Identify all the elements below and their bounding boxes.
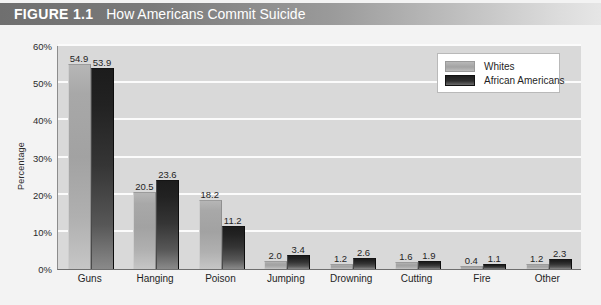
legend-label-african-americans: African Americans (484, 75, 565, 86)
bar-value-label: 11.2 (216, 215, 250, 226)
legend-item-whites: Whites (445, 59, 553, 73)
bar-other-african-americans (549, 259, 572, 269)
bar-guns-whites (68, 64, 91, 269)
bar-cutting-african-americans (418, 261, 441, 269)
bar-other-whites (526, 264, 549, 269)
bar-group: 2.03.4 (254, 46, 319, 269)
x-axis-label-other: Other (507, 273, 587, 284)
bar-guns-african-americans (91, 68, 114, 269)
chart-legend: Whites African Americans (437, 53, 560, 93)
y-axis-tick-labels: 0%10%20%30%40%50%60% (12, 25, 52, 305)
bar-value-label: 18.2 (193, 189, 227, 200)
bar-value-label: 3.4 (281, 244, 315, 255)
y-axis-tick-label: 20% (18, 189, 52, 200)
bar-jumping-whites (264, 261, 287, 269)
bar-fire-whites (460, 266, 483, 269)
legend-swatch-whites (445, 61, 475, 72)
bar-group: 1.22.6 (320, 46, 385, 269)
bar-group: 18.211.2 (189, 46, 254, 269)
figure-number: FIGURE 1.1 (14, 6, 93, 22)
chart-area: Percentage 0%10%20%30%40%50%60% 54.953.9… (0, 25, 601, 305)
y-axis-tick-label: 40% (18, 115, 52, 126)
y-axis-tick-label: 30% (18, 152, 52, 163)
bar-value-label: 23.6 (150, 169, 184, 180)
y-axis-tick-label: 60% (18, 41, 52, 52)
bar-poison-whites (199, 200, 222, 269)
bar-value-label: 2.6 (347, 247, 381, 258)
y-axis-tick-label: 0% (18, 264, 52, 275)
legend-swatch-african-americans (445, 75, 475, 86)
bar-hanging-whites (133, 192, 156, 269)
bar-cutting-whites (395, 262, 418, 269)
bar-value-label: 1.9 (412, 250, 446, 261)
legend-item-african-americans: African Americans (445, 73, 553, 87)
bar-value-label: 2.3 (543, 248, 577, 259)
bar-value-label: 53.9 (85, 57, 119, 68)
y-axis-tick-label: 10% (18, 226, 52, 237)
bar-drowning-african-americans (353, 258, 376, 269)
figure-container: FIGURE 1.1 How Americans Commit Suicide … (0, 0, 601, 305)
bar-fire-african-americans (483, 264, 506, 269)
y-axis-tick-label: 50% (18, 78, 52, 89)
bar-value-label: 1.1 (477, 253, 511, 264)
bar-poison-african-americans (222, 226, 245, 269)
figure-title-bar: FIGURE 1.1 How Americans Commit Suicide (0, 3, 601, 25)
bar-hanging-african-americans (156, 180, 179, 269)
figure-title: How Americans Commit Suicide (106, 6, 305, 22)
bar-jumping-african-americans (287, 255, 310, 269)
bar-drowning-whites (330, 264, 353, 269)
legend-label-whites: Whites (484, 61, 515, 72)
bar-group: 20.523.6 (123, 46, 188, 269)
bar-group: 54.953.9 (58, 46, 123, 269)
